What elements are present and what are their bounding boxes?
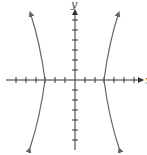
y-axis-label: y	[70, 0, 78, 11]
hyperbola-graph: y x	[0, 0, 147, 155]
x-axis-label: x	[145, 74, 147, 87]
